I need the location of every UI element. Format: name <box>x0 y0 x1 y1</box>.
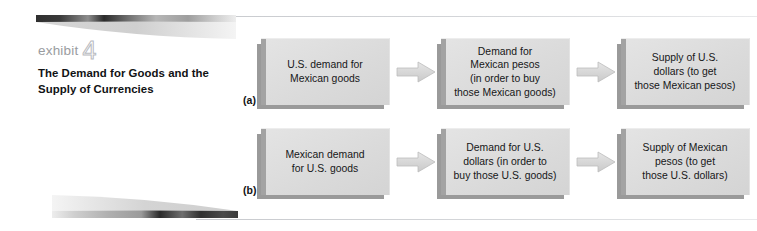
flow-node-a2-text: Demand for Mexican pesos (in order to bu… <box>454 45 556 100</box>
arrow-right-icon <box>570 128 621 195</box>
flow-node-a2: Demand for Mexican pesos (in order to bu… <box>441 38 570 105</box>
exhibit-label: exhibit 4 <box>38 38 96 63</box>
flow-node-a3: Supply of U.S. dollars (to get those Mex… <box>621 38 750 105</box>
row-tag-b: (b) <box>243 184 257 196</box>
flow-node-a1-text: U.S. demand for Mexican goods <box>287 58 363 85</box>
flow-node-b3: Supply of Mexican pesos (to get those U.… <box>621 128 750 195</box>
flow-node-a3-text: Supply of U.S. dollars (to get those Mex… <box>634 51 735 92</box>
exhibit-caption: The Demand for Goods and the Supply of C… <box>38 66 238 97</box>
flow-node-b1-text: Mexican demand for U.S. goods <box>285 148 364 175</box>
flow-row-b: (b) Mexican demand for U.S. goods Demand… <box>261 128 750 195</box>
bottom-divider-rule <box>196 219 757 220</box>
exhibit-label-word: exhibit <box>38 38 78 58</box>
arrow-right-icon <box>570 38 621 105</box>
row-tag-a: (a) <box>243 94 256 106</box>
flow-node-b2: Demand for U.S. dollars (in order to buy… <box>441 128 570 195</box>
flow-node-b3-text: Supply of Mexican pesos (to get those U.… <box>642 141 727 182</box>
top-decorative-wedge <box>36 13 236 41</box>
arrow-right-icon <box>390 128 441 195</box>
top-divider-rule <box>196 16 757 17</box>
flow-row-a: (a) U.S. demand for Mexican goods Deman <box>261 38 750 105</box>
exhibit-figure: exhibit 4 The Demand for Goods and the S… <box>0 0 757 231</box>
flow-node-a1: U.S. demand for Mexican goods <box>261 38 390 105</box>
arrow-right-icon <box>390 38 441 105</box>
flow-node-b1: Mexican demand for U.S. goods <box>261 128 390 195</box>
flow-node-b2-text: Demand for U.S. dollars (in order to buy… <box>454 141 557 182</box>
exhibit-number: 4 <box>82 38 96 63</box>
bottom-decorative-wedge <box>52 192 238 220</box>
